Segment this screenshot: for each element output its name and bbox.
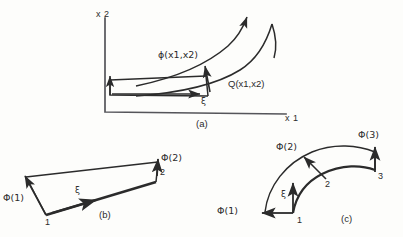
panel-c-node-2-label: 2 — [325, 180, 330, 189]
panel-b-element — [25, 159, 158, 215]
panel-b-phi2-label: Φ(2) — [161, 153, 182, 163]
panel-a-phi-label: ϕ(x1,x2) — [158, 50, 198, 60]
panel-b-node-2-label: 2 — [160, 168, 165, 177]
panel-a-y-axis-label: x 2 — [96, 10, 110, 19]
panel-a-xi-label: ξ — [201, 97, 206, 106]
panel-c-element — [262, 146, 375, 213]
panel-a-caption: (a) — [196, 119, 208, 129]
panel-c-phi3-label: Φ(3) — [358, 130, 379, 140]
panel-a-x-axis-label: x 1 — [285, 114, 299, 123]
panel-a-local-element — [110, 66, 210, 96]
panel-b-node-1-label: 1 — [45, 218, 50, 227]
panel-a-q-label: Q(x1,x2) — [228, 79, 264, 89]
panel-c-node-3-label: 3 — [378, 172, 383, 181]
panel-c-phi2-label: Φ(2) — [276, 142, 297, 152]
figure-canvas: x 2 x 1 ϕ(x1,x2) Q(x1,x2) ξ (a) Φ(1) Φ(2… — [0, 0, 403, 237]
panel-c-caption: (c) — [341, 214, 352, 224]
panel-b-xi-label: ξ — [75, 186, 80, 195]
panel-a-axes — [105, 18, 286, 114]
panel-b-phi1-label: Φ(1) — [3, 193, 24, 203]
panel-b-caption: (b) — [99, 210, 111, 220]
panel-c-phi1-label: Φ(1) — [217, 206, 238, 216]
panel-c-node-1-label: 1 — [297, 216, 302, 225]
panel-c-xi-label: ξ — [281, 190, 286, 199]
